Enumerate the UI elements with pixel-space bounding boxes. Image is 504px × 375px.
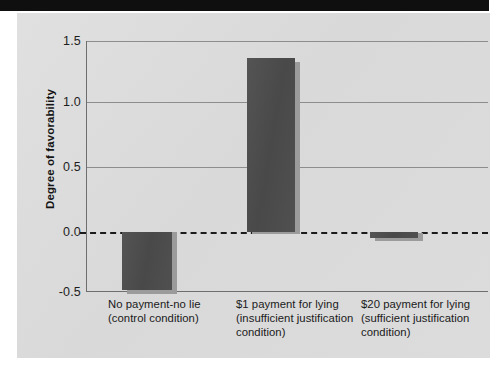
x-label-control-condition: No payment-no lie (control condition)	[108, 297, 248, 325]
figure-page: Degree of favorability 1.5 1.0 0.5 0.0 -…	[0, 0, 504, 375]
y-tick-label: 0.5	[37, 161, 81, 174]
bar-group-1	[122, 41, 172, 292]
plot-area	[86, 41, 488, 292]
bar-1-dollar-payment[interactable]	[247, 58, 295, 232]
y-tick-label: 1.0	[37, 96, 81, 109]
x-label-line: condition)	[236, 325, 376, 339]
chart-panel: Degree of favorability 1.5 1.0 0.5 0.0 -…	[17, 13, 490, 358]
x-label-line: $1 payment for lying	[236, 297, 376, 311]
x-label-insufficient-justification: $1 payment for lying (insufficient justi…	[236, 297, 376, 340]
y-axis-tick-labels: 1.5 1.0 0.5 0.0 -0.5	[37, 41, 81, 292]
y-tick-label: 0.0	[37, 226, 81, 239]
x-label-line: (insufficient justification	[236, 311, 376, 325]
y-tick-label: -0.5	[37, 286, 81, 299]
x-label-line: condition)	[361, 325, 501, 339]
bar-group-2	[247, 41, 295, 292]
x-label-line: No payment-no lie	[108, 297, 248, 311]
page-top-black-band	[0, 0, 489, 11]
bar-20-dollar-payment[interactable]	[370, 232, 418, 238]
y-tick-label: 1.5	[37, 35, 81, 48]
x-label-sufficient-justification: $20 payment for lying (sufficient justif…	[361, 297, 501, 340]
x-axis-category-labels: No payment-no lie (control condition) $1…	[86, 297, 488, 355]
bar-group-3	[370, 41, 418, 292]
x-label-line: $20 payment for lying	[361, 297, 501, 311]
y-axis-line	[86, 41, 87, 292]
x-label-line: (sufficient justification	[361, 311, 501, 325]
x-label-line: (control condition)	[108, 311, 248, 325]
bar-no-payment-no-lie[interactable]	[122, 232, 172, 290]
